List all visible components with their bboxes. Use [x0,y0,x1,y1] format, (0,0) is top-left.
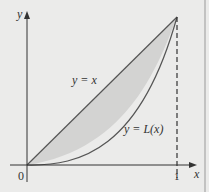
y-axis-arrow-icon [24,11,30,19]
curve-label: y = L(x) [123,122,163,136]
origin-label: 0 [18,169,24,183]
x-tick-label: 1 [174,170,180,182]
y-axis-label: y [16,7,23,21]
line-label: y = x [71,73,97,87]
lorenz-diagram: y 0 1 x y = x y = L(x) [0,0,209,192]
line-y-equals-x [27,17,177,165]
x-axis-label: x [193,167,200,181]
